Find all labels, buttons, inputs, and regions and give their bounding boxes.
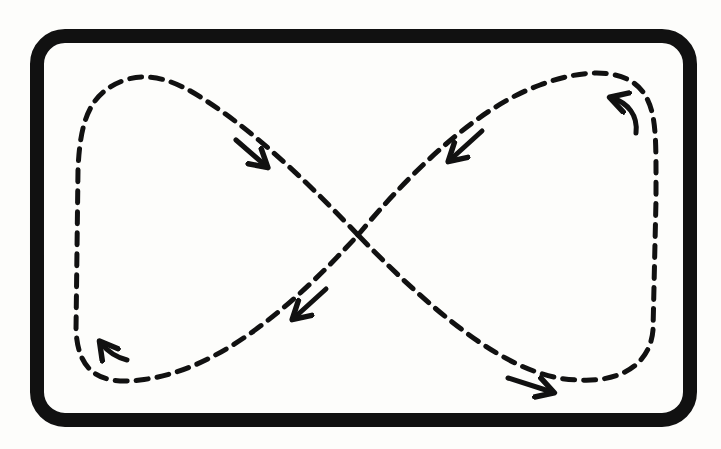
figure-eight-path <box>76 73 656 381</box>
figure-eight-diagram <box>0 0 721 449</box>
right-loop <box>358 73 656 380</box>
arrow-right-icon <box>508 378 552 392</box>
curved-arrow-up-left-lower-icon <box>101 343 127 360</box>
left-loop <box>76 77 358 381</box>
curved-arrow-up-left-icon <box>612 98 636 133</box>
